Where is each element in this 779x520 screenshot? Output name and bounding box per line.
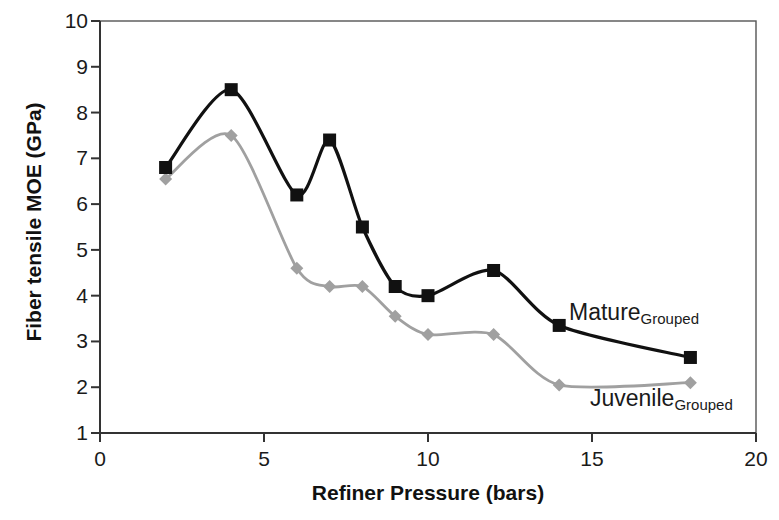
data-point-marker-square [422, 289, 435, 302]
y-tick-label: 1 [40, 421, 88, 445]
data-point-marker-square [159, 161, 172, 174]
y-tick-label: 9 [40, 55, 88, 79]
y-tick-label: 2 [40, 375, 88, 399]
y-tick-label: 7 [40, 146, 88, 170]
x-tick-label: 10 [416, 447, 439, 471]
x-tick-label: 5 [258, 447, 270, 471]
data-point-marker-square [389, 280, 402, 293]
chart-plot-area [0, 0, 779, 520]
chart-container: 1234567891005101520 Fiber tensile MOE (G… [0, 0, 779, 520]
y-tick-label: 8 [40, 101, 88, 125]
x-tick-label: 0 [94, 447, 106, 471]
series-label-mature: MatureGrouped [569, 299, 699, 326]
x-axis-title: Refiner Pressure (bars) [100, 481, 756, 505]
data-point-marker-square [290, 188, 303, 201]
data-point-marker-square [323, 134, 336, 147]
data-point-marker-square [487, 264, 500, 277]
y-tick-label: 5 [40, 238, 88, 262]
series-juvenile [159, 129, 697, 391]
data-point-marker-square [553, 319, 566, 332]
x-tick-label: 15 [580, 447, 603, 471]
data-point-marker-diamond [553, 378, 566, 391]
series-label-juvenile-text: Juvenile [590, 385, 674, 411]
data-point-marker-square [684, 351, 697, 364]
chart-axes [91, 21, 756, 442]
series-label-juvenile-subscript: Grouped [674, 396, 732, 413]
x-tick-label: 20 [744, 447, 767, 471]
y-tick-label: 6 [40, 192, 88, 216]
data-point-marker-diamond [422, 328, 435, 341]
y-tick-label: 4 [40, 284, 88, 308]
y-tick-label: 3 [40, 329, 88, 353]
y-tick-label: 10 [40, 9, 88, 33]
data-point-marker-diamond [323, 280, 336, 293]
series-label-mature-subscript: Grouped [641, 310, 699, 327]
data-point-marker-square [225, 83, 238, 96]
data-point-marker-diamond [487, 328, 500, 341]
data-point-marker-square [356, 221, 369, 234]
series-label-juvenile: JuvenileGrouped [590, 385, 733, 412]
chart-series [159, 83, 697, 391]
y-axis-title: Fiber tensile MOE (GPa) [22, 22, 46, 422]
series-label-mature-text: Mature [569, 299, 641, 325]
